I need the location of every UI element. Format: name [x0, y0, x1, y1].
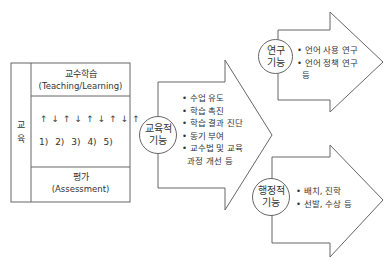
- step-numbers: 1) 2) 3) 4) 5): [39, 136, 113, 148]
- list-item: • 언어 사용 연구: [297, 44, 358, 57]
- research-function-circle: 연구 기능: [258, 39, 293, 74]
- list-item: • 학습 촉진: [182, 105, 243, 118]
- bidirectional-arrows: ↑↓↑↓↑↓↑↓↑: [40, 114, 144, 124]
- list-item: 등: [297, 69, 358, 82]
- education-function-list: • 수업 유도 • 학습 촉진 • 학습 결과 진단 • 동기 부여 • 교수법…: [182, 92, 243, 167]
- admin-function-circle: 행정적 기능: [252, 178, 290, 216]
- assessment-cell: 평가 (Assessment): [31, 171, 130, 195]
- assessment-en: (Assessment): [31, 183, 130, 195]
- list-item: • 교수법 및 교육: [182, 142, 243, 155]
- admin-function-list: • 배치, 진학 • 선발, 수상 등: [296, 185, 352, 210]
- list-item: • 수업 유도: [182, 92, 243, 105]
- list-item: 과정 개선 등: [182, 155, 243, 168]
- teaching-learning-cell: 교수학습 (Teaching/Learning): [31, 68, 130, 92]
- side-label: 교 육: [13, 118, 29, 146]
- teaching-en: (Teaching/Learning): [31, 80, 130, 92]
- list-item: • 학습 결과 진단: [182, 117, 243, 130]
- education-function-circle: 교육적 기능: [139, 116, 177, 154]
- assessment-ko: 평가: [31, 171, 130, 183]
- list-item: • 배치, 진학: [296, 185, 352, 198]
- list-item: • 동기 부여: [182, 130, 243, 143]
- list-item: • 선발, 수상 등: [296, 198, 352, 211]
- research-function-list: • 언어 사용 연구 • 언어 정책 연구 등: [297, 44, 358, 82]
- list-item: • 언어 정책 연구: [297, 57, 358, 70]
- teaching-ko: 교수학습: [31, 68, 130, 80]
